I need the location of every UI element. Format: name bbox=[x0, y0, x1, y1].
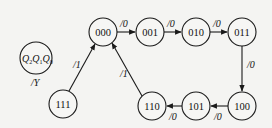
legend: Q2Q1Q0 /Y bbox=[20, 42, 53, 88]
edge-label-101-110: /0 bbox=[168, 111, 177, 122]
state-label-000: 000 bbox=[95, 27, 111, 38]
state-label-001: 001 bbox=[142, 27, 158, 38]
state-label-111: 111 bbox=[56, 99, 71, 110]
state-label-010: 010 bbox=[188, 27, 204, 38]
edge-label-001-010: /0 bbox=[166, 18, 175, 29]
state-110: 110 bbox=[138, 92, 166, 120]
state-label-011: 011 bbox=[234, 27, 249, 38]
edge-label-000-001: /0 bbox=[119, 18, 128, 29]
state-label-100: 100 bbox=[234, 101, 250, 112]
state-011: 011 bbox=[228, 18, 256, 46]
state-100: 100 bbox=[228, 92, 256, 120]
edge-label-011-100: /0 bbox=[246, 59, 255, 70]
edge-label-010-011: /0 bbox=[212, 18, 221, 29]
edge-label-110-000: /1 bbox=[119, 68, 128, 79]
legend-output-label: /Y bbox=[30, 77, 41, 88]
legend-state-vars: Q2Q1Q0 bbox=[22, 53, 53, 65]
state-diagram: Q2Q1Q0 /Y /0 /0 /0 /0 /0 /0 /1 /1 bbox=[0, 0, 272, 128]
state-label-110: 110 bbox=[144, 101, 159, 112]
state-010: 010 bbox=[182, 18, 210, 46]
edge-label-100-101: /0 bbox=[213, 111, 222, 122]
state-101: 101 bbox=[182, 92, 210, 120]
state-111: 111 bbox=[49, 90, 77, 118]
state-label-101: 101 bbox=[188, 101, 204, 112]
state-000: 000 bbox=[89, 18, 117, 46]
state-001: 001 bbox=[136, 18, 164, 46]
edge-label-111-000: /1 bbox=[72, 59, 81, 70]
